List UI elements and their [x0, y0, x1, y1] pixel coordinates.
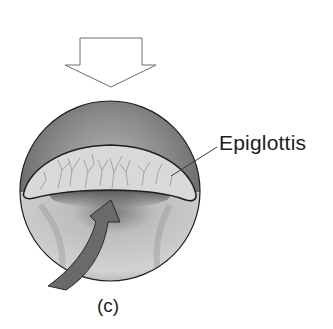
- epiglottis-diagram: [0, 0, 333, 329]
- downward-arrow-icon: [65, 38, 156, 87]
- epiglottis-label: Epiglottis: [219, 131, 306, 155]
- panel-label: (c): [97, 295, 119, 317]
